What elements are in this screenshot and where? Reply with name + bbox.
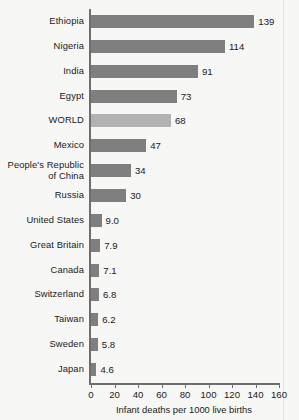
bar: [91, 164, 131, 177]
x-axis-tick: [138, 383, 139, 388]
category-label: India: [0, 66, 84, 77]
chart-row: Sweden5.8: [0, 333, 299, 357]
bar: [91, 15, 254, 28]
chart-row: Egypt73: [0, 85, 299, 109]
category-label: Taiwan: [0, 314, 84, 325]
x-axis-tick-label: 20: [109, 389, 120, 400]
category-label: People's Republic of China: [0, 160, 84, 181]
bar-value-label: 47: [150, 139, 161, 152]
bar: [91, 139, 146, 152]
chart-row: People's Republic of China34: [0, 159, 299, 183]
x-axis-tick-label: 140: [247, 389, 263, 400]
bar-value-label: 114: [229, 40, 244, 53]
x-axis-tick-label: 0: [88, 389, 93, 400]
category-label: Nigeria: [0, 41, 84, 52]
bar: [91, 189, 126, 202]
chart-row: Ethiopia139: [0, 10, 299, 34]
x-axis-tick: [279, 383, 280, 388]
chart-row: United States9.0: [0, 209, 299, 233]
chart-row: Taiwan6.2: [0, 308, 299, 332]
bar: [91, 214, 102, 227]
bar-value-label: 30: [130, 189, 141, 202]
infant-mortality-bar-chart: Ethiopia139Nigeria114India91Egypt73WORLD…: [0, 0, 299, 420]
chart-row: Great Britain7.9: [0, 234, 299, 258]
bar-value-label: 139: [258, 15, 274, 28]
category-label: Russia: [0, 190, 84, 201]
category-label: Sweden: [0, 339, 84, 350]
bar: [91, 114, 171, 127]
chart-row: Japan4.6: [0, 358, 299, 382]
x-axis-tick: [91, 383, 92, 388]
plot-area: Ethiopia139Nigeria114India91Egypt73WORLD…: [0, 0, 299, 420]
bar: [91, 313, 98, 326]
x-axis-tick-labels: 020406080100120140160: [0, 389, 299, 402]
bar-value-label: 7.1: [103, 264, 116, 277]
bar: [91, 288, 99, 301]
bar-value-label: 4.6: [100, 363, 113, 376]
bar: [91, 40, 225, 53]
category-label: Switzerland: [0, 289, 84, 300]
bar-value-label: 9.0: [106, 214, 119, 227]
chart-row: Russia30: [0, 184, 299, 208]
bar: [91, 239, 100, 252]
bar: [91, 90, 177, 103]
category-label: Canada: [0, 265, 84, 276]
category-label: Ethiopia: [0, 16, 84, 27]
category-label: Japan: [0, 364, 84, 375]
bar-value-label: 91: [202, 65, 213, 78]
bar-value-label: 68: [175, 114, 186, 127]
bar: [91, 363, 96, 376]
bar-value-label: 6.2: [102, 313, 115, 326]
chart-row: Switzerland6.8: [0, 283, 299, 307]
chart-row: India91: [0, 60, 299, 84]
category-label: Egypt: [0, 91, 84, 102]
category-label: Mexico: [0, 140, 84, 151]
bar-value-label: 7.9: [104, 239, 117, 252]
x-axis-title: Infant deaths per 1000 live births: [89, 404, 279, 415]
x-axis-tick-label: 40: [133, 389, 144, 400]
x-axis-tick-label: 100: [200, 389, 216, 400]
chart-row: Mexico47: [0, 134, 299, 158]
chart-row: Canada7.1: [0, 259, 299, 283]
bar: [91, 65, 198, 78]
bar-value-label: 5.8: [102, 338, 115, 351]
x-axis-tick: [256, 383, 257, 388]
category-label: United States: [0, 215, 84, 226]
bar: [91, 264, 99, 277]
chart-row: Nigeria114: [0, 35, 299, 59]
x-axis-tick: [209, 383, 210, 388]
bar: [91, 338, 98, 351]
x-axis-tick-label: 80: [180, 389, 191, 400]
x-axis-tick: [185, 383, 186, 388]
x-axis-tick: [115, 383, 116, 388]
x-axis-tick-label: 160: [271, 389, 287, 400]
bar-value-label: 34: [135, 164, 146, 177]
x-axis-tick-label: 120: [224, 389, 240, 400]
chart-row: WORLD68: [0, 109, 299, 133]
x-axis-tick: [162, 383, 163, 388]
category-label: Great Britain: [0, 240, 84, 251]
bar-value-label: 6.8: [103, 288, 116, 301]
bar-value-label: 73: [181, 90, 192, 103]
category-label: WORLD: [0, 115, 84, 126]
x-axis-tick: [232, 383, 233, 388]
x-axis-tick-label: 60: [156, 389, 167, 400]
